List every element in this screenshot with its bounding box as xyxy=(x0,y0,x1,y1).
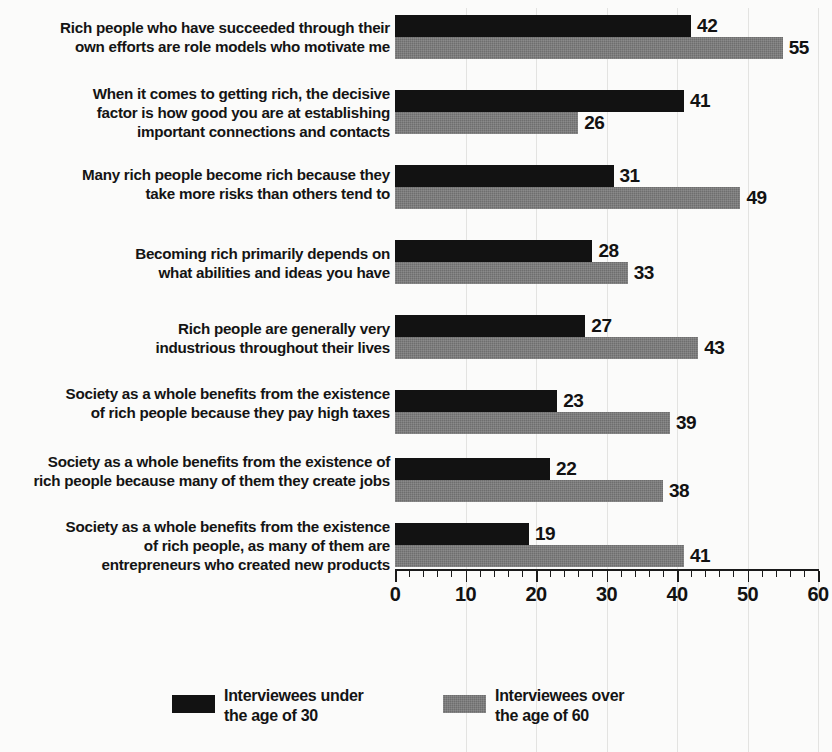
x-tick-major xyxy=(607,571,609,582)
x-tick-label: 50 xyxy=(737,583,758,606)
category-label: Becoming rich primarily depends on what … xyxy=(0,244,390,282)
bar-value-label: 27 xyxy=(591,315,611,337)
bar-value-label: 41 xyxy=(690,90,710,112)
x-tick-minor xyxy=(719,571,720,577)
x-tick-major xyxy=(748,571,750,582)
gridline xyxy=(818,8,819,752)
category-label: Many rich people become rich because the… xyxy=(0,165,390,203)
x-tick-minor xyxy=(522,571,523,577)
bar-value-label: 19 xyxy=(535,523,555,545)
x-tick-minor xyxy=(437,571,438,577)
x-tick-minor xyxy=(480,571,481,577)
x-tick-minor xyxy=(451,571,452,577)
bar xyxy=(395,15,691,37)
bar-value-label: 49 xyxy=(746,187,766,209)
bar xyxy=(395,337,698,359)
bar-value-label: 39 xyxy=(676,412,696,434)
bar-value-label: 55 xyxy=(789,37,809,59)
x-tick-label: 10 xyxy=(455,583,476,606)
x-tick-minor xyxy=(790,571,791,577)
bar xyxy=(395,165,614,187)
bar-value-label: 22 xyxy=(556,458,576,480)
x-tick-minor xyxy=(550,571,551,577)
x-tick-minor xyxy=(409,571,410,577)
bar xyxy=(395,458,550,480)
gridline xyxy=(607,8,608,752)
legend-label: Interviewees under the age of 30 xyxy=(224,686,364,726)
x-tick-minor xyxy=(649,571,650,577)
bar-value-label: 26 xyxy=(584,112,604,134)
bar xyxy=(395,523,529,545)
gridline xyxy=(677,8,678,752)
gridline xyxy=(748,8,749,752)
bar xyxy=(395,390,557,412)
x-tick-minor xyxy=(578,571,579,577)
bar xyxy=(395,37,783,59)
bar-value-label: 43 xyxy=(704,337,724,359)
x-tick-label: 60 xyxy=(807,583,828,606)
x-tick-minor xyxy=(508,571,509,577)
legend-swatch xyxy=(443,695,486,713)
bar-value-label: 42 xyxy=(697,15,717,37)
chart-legend: Interviewees under the age of 30Intervie… xyxy=(0,686,832,752)
bar xyxy=(395,412,670,434)
legend-item: Interviewees under the age of 30 xyxy=(172,686,364,726)
category-label: Society as a whole benefits from the exi… xyxy=(0,384,390,422)
bar-value-label: 41 xyxy=(690,545,710,567)
x-tick-minor xyxy=(663,571,664,577)
x-tick-major xyxy=(466,571,468,582)
x-tick-minor xyxy=(564,571,565,577)
bar xyxy=(395,112,578,134)
legend-swatch xyxy=(172,695,215,713)
bar-value-label: 31 xyxy=(620,165,640,187)
x-tick-label: 0 xyxy=(390,583,401,606)
x-tick-minor xyxy=(635,571,636,577)
category-label: When it comes to getting rich, the decis… xyxy=(0,84,390,141)
x-tick-major xyxy=(536,571,538,582)
bar xyxy=(395,545,684,567)
bar xyxy=(395,480,663,502)
x-tick-major xyxy=(395,571,397,582)
category-label: Society as a whole benefits from the exi… xyxy=(0,452,390,490)
x-tick-minor xyxy=(705,571,706,577)
x-tick-label: 20 xyxy=(525,583,546,606)
bar xyxy=(395,262,628,284)
x-tick-minor xyxy=(423,571,424,577)
x-tick-major xyxy=(818,571,820,582)
category-label: Society as a whole benefits from the exi… xyxy=(0,517,390,574)
x-tick-minor xyxy=(804,571,805,577)
bar-value-label: 38 xyxy=(669,480,689,502)
x-tick-minor xyxy=(621,571,622,577)
bar-value-label: 28 xyxy=(598,240,618,262)
category-label: Rich people who have succeeded through t… xyxy=(0,18,390,56)
legend-item: Interviewees over the age of 60 xyxy=(443,686,624,726)
x-tick-minor xyxy=(733,571,734,577)
x-tick-minor xyxy=(494,571,495,577)
bar-value-label: 23 xyxy=(563,390,583,412)
x-tick-minor xyxy=(691,571,692,577)
x-tick-label: 40 xyxy=(666,583,687,606)
x-tick-major xyxy=(677,571,679,582)
legend-label: Interviewees over the age of 60 xyxy=(495,686,624,726)
bar xyxy=(395,90,684,112)
x-tick-label: 30 xyxy=(596,583,617,606)
x-tick-minor xyxy=(592,571,593,577)
bar xyxy=(395,187,740,209)
x-tick-minor xyxy=(762,571,763,577)
bar-value-label: 33 xyxy=(634,262,654,284)
x-tick-minor xyxy=(776,571,777,577)
bar-chart: Rich people who have succeeded through t… xyxy=(0,0,832,752)
bar xyxy=(395,315,585,337)
category-label: Rich people are generally very industrio… xyxy=(0,319,390,357)
bar xyxy=(395,240,592,262)
